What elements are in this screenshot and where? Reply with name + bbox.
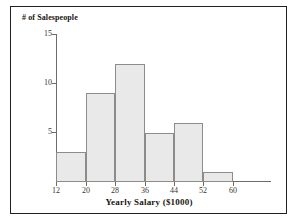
x-axis-title: Yearly Salary ($1000) (0, 197, 298, 207)
x-tick-label-44: 44 (164, 186, 184, 195)
y-axis-title: # of Salespeople (22, 13, 78, 22)
y-tick-label-5: 5 (36, 127, 52, 136)
y-tick-label-15: 15 (36, 29, 52, 38)
x-tick-label-60: 60 (223, 186, 243, 195)
histogram-bar-6 (203, 172, 233, 182)
histogram-bar-3 (115, 64, 145, 182)
figure-container: # of Salespeople 15 10 5 12 20 28 36 44 … (0, 0, 298, 221)
histogram-plot: # of Salespeople 15 10 5 12 20 28 36 44 … (0, 0, 298, 221)
y-tick-label-10: 10 (36, 78, 52, 87)
histogram-bar-2 (86, 93, 115, 182)
x-tick-label-52: 52 (193, 186, 213, 195)
x-tick-label-28: 28 (105, 186, 125, 195)
x-tick-label-20: 20 (76, 186, 96, 195)
histogram-bar-1 (56, 152, 86, 182)
x-tick-label-12: 12 (46, 186, 66, 195)
x-tick-label-36: 36 (135, 186, 155, 195)
histogram-bar-5 (174, 123, 203, 182)
histogram-bar-4 (145, 133, 174, 182)
